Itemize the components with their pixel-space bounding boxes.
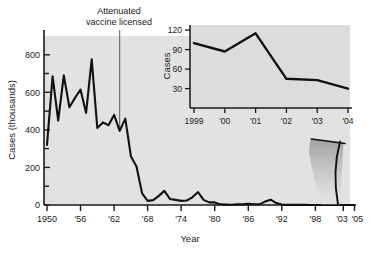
main-xtick-1956: '56 bbox=[75, 214, 87, 224]
main-xtick-1998: '98 bbox=[310, 214, 322, 224]
main-xtick-1992: '92 bbox=[276, 214, 288, 224]
main-ytick-600: 600 bbox=[25, 88, 40, 98]
annotation-line-2: vaccine licensed bbox=[86, 17, 152, 27]
main-x-axis-title: Year bbox=[180, 233, 199, 244]
inset-ytick-30: 30 bbox=[173, 84, 183, 94]
main-xtick-1962: '62 bbox=[108, 214, 120, 224]
main-ytick-0: 0 bbox=[35, 200, 40, 210]
main-xtick-1950: 1950 bbox=[37, 214, 57, 224]
inset-xtick-2000: '00 bbox=[219, 116, 230, 126]
inset-ytick-120: 120 bbox=[168, 25, 182, 35]
main-ytick-800: 800 bbox=[25, 50, 40, 60]
inset-xtick-2003: '03 bbox=[312, 116, 323, 126]
main-ytick-400: 400 bbox=[25, 125, 40, 135]
inset-xtick-1999: 1999 bbox=[185, 116, 204, 126]
main-xtick-2005: '05 bbox=[352, 214, 364, 224]
main-xtick-1980: '80 bbox=[209, 214, 221, 224]
main-xtick-1986: '86 bbox=[242, 214, 254, 224]
main-xtick-1974: '74 bbox=[175, 214, 187, 224]
inset-xtick-2001: '01 bbox=[250, 116, 261, 126]
main-ytick-200: 200 bbox=[25, 163, 40, 173]
inset-plot-background bbox=[190, 25, 350, 108]
inset-xtick-2002: '02 bbox=[281, 116, 292, 126]
inset-ytick-90: 90 bbox=[173, 45, 183, 55]
measles-cases-figure: 0 200 400 600 800 1950 '56 '62 '68 '74 '… bbox=[0, 0, 372, 257]
main-xtick-2003: '03 bbox=[336, 214, 348, 224]
inset-xtick-2004: '04 bbox=[342, 116, 353, 126]
chart-svg: 0 200 400 600 800 1950 '56 '62 '68 '74 '… bbox=[0, 0, 372, 257]
main-xtick-1968: '68 bbox=[142, 214, 154, 224]
annotation-line-1: Attenuated bbox=[97, 6, 141, 16]
inset-ytick-60: 60 bbox=[173, 64, 183, 74]
inset-y-axis-title: Cases bbox=[161, 52, 172, 79]
main-y-axis-title: Cases (thousands) bbox=[6, 80, 17, 160]
